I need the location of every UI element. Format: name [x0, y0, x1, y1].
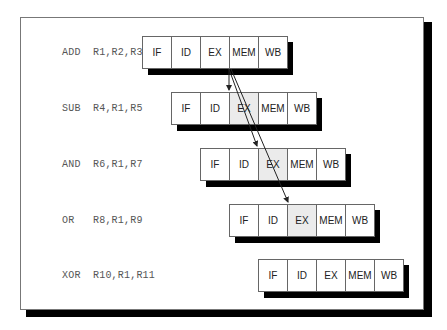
arrow-to-or-ex	[231, 69, 288, 202]
dependency-arrows	[0, 0, 447, 330]
arrow-to-and-ex	[229, 69, 257, 146]
